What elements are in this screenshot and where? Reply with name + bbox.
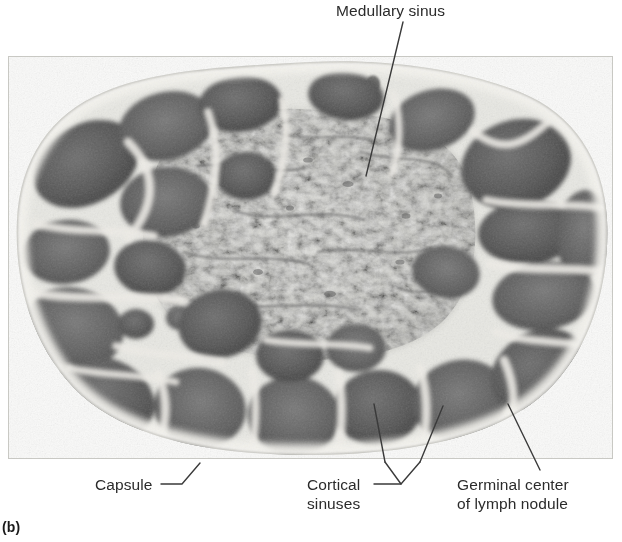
leader-cortical-sinuses-b: [385, 462, 401, 484]
label-cortical-sinuses-line2: sinuses: [307, 494, 360, 513]
panel-letter: (b): [2, 519, 20, 535]
leader-cortical-sinuses-a: [374, 462, 420, 484]
leader-capsule: [161, 463, 200, 484]
label-cortical-sinuses-line1: Cortical: [307, 475, 360, 494]
micrograph-overlay-grain: [8, 56, 613, 459]
micrograph-canvas: [8, 56, 613, 459]
label-medullary-sinus: Medullary sinus: [336, 1, 445, 20]
label-capsule: Capsule: [95, 475, 153, 494]
figure-panel-b: Medullary sinus Capsule Cortical sinuses…: [0, 0, 622, 542]
label-germinal-center-line1: Germinal center: [457, 475, 569, 494]
lymph-node-micrograph: [8, 56, 613, 459]
label-germinal-center-line2: of lymph nodule: [457, 494, 568, 513]
